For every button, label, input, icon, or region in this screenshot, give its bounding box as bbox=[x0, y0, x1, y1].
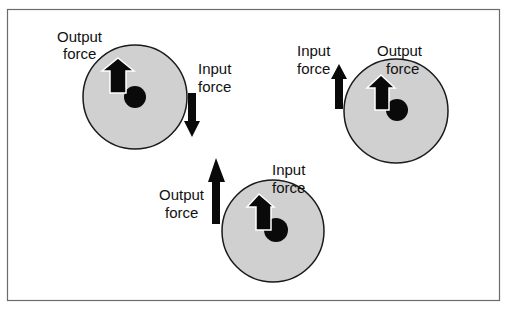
input-force-label-line1: Input bbox=[272, 161, 306, 178]
input-force-label-line1: Input bbox=[198, 60, 232, 77]
input-force-label-line2: force bbox=[272, 179, 305, 196]
output-force-label-line1: Output bbox=[377, 42, 423, 59]
input-force-label-line2: force bbox=[297, 60, 330, 77]
output-force-label-line2: force bbox=[63, 45, 96, 62]
diagram-canvas: Output force Input force Input force Out… bbox=[0, 0, 509, 309]
output-force-label-line1: Output bbox=[159, 186, 205, 203]
input-force-label-line1: Input bbox=[297, 42, 331, 59]
output-force-label-line2: force bbox=[165, 204, 198, 221]
input-force-label-line2: force bbox=[198, 78, 231, 95]
axle-dot bbox=[124, 86, 146, 108]
output-force-label-line1: Output bbox=[57, 28, 103, 45]
output-force-label-line2: force bbox=[386, 60, 419, 77]
